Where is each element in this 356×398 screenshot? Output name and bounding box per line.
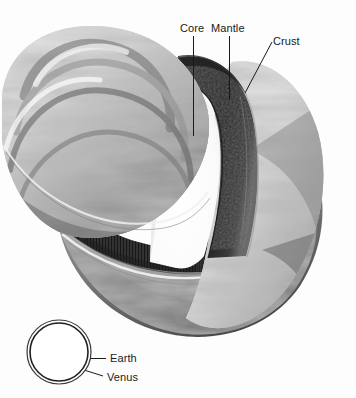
venus-interior-figure: Core Mantle Crust Earth Venus: [0, 0, 356, 398]
label-mantle: Mantle: [211, 22, 245, 34]
venus-circle: [30, 323, 88, 381]
venus-cutaway-illustration: [0, 0, 356, 398]
label-core: Core: [180, 22, 204, 34]
size-comparison-inset: [27, 320, 91, 384]
label-earth: Earth: [110, 352, 137, 364]
label-venus: Venus: [107, 371, 138, 383]
label-crust: Crust: [273, 35, 300, 47]
